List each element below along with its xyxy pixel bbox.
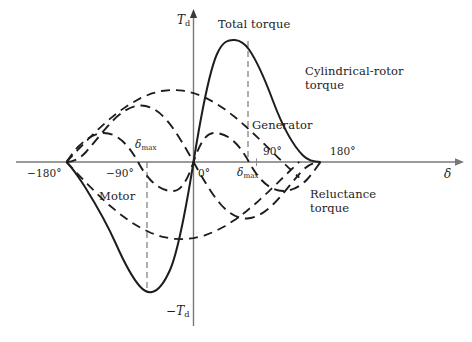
x-axis — [16, 158, 464, 165]
motor-region-label: Motor — [99, 190, 135, 203]
torque-angle-plot — [0, 0, 472, 342]
delta-max-left-label: δmax — [135, 139, 156, 152]
delta-max-right-label: δmax — [237, 167, 258, 180]
generator-region-label: Generator — [252, 119, 313, 132]
x-tick-label-minus90: −90° — [106, 168, 134, 180]
x-tick-label-minus180: −180° — [27, 168, 62, 180]
reluctance-torque-label: Reluctance torque — [310, 188, 376, 215]
cylindrical-rotor-torque-label: Cylindrical-rotor torque — [305, 65, 404, 92]
x-tick-label-180: 180° — [330, 146, 356, 158]
x-tick-label-90: 90° — [263, 146, 282, 158]
x-tick-label-zero: 0° — [198, 168, 210, 180]
y-axis-top-label: Td — [177, 14, 190, 28]
total-torque-label: Total torque — [218, 18, 290, 31]
y-axis-bottom-label: −Td — [166, 305, 190, 319]
x-axis-label: δ — [444, 168, 451, 181]
torque-angle-figure: Td −Td δ −180° −90° 0° 90° 180° δmax δma… — [0, 0, 472, 342]
